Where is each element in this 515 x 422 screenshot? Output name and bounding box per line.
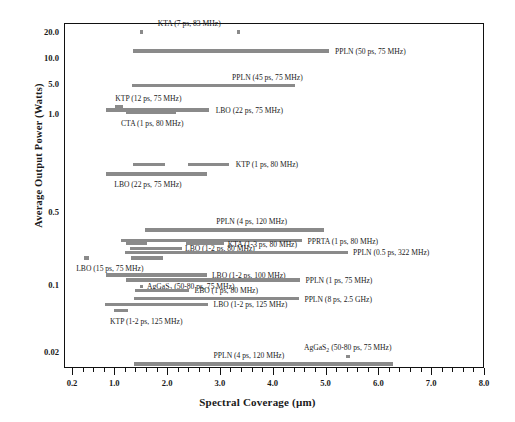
data-label-ktp-20: KTP (1-2 ps, 125 MHz): [110, 316, 183, 325]
data-bar-lbo-7-0: [106, 172, 206, 175]
y-tick-label-0-5: 0.5: [48, 207, 59, 217]
x-tick-minor: [104, 368, 105, 372]
data-label-kta-0: KTA (7 ps, 83 MHz): [158, 19, 221, 28]
data-bar-ktp-20-0: [114, 309, 128, 312]
x-tick-minor: [421, 368, 422, 372]
y-tick-label-1-0: 1.0: [48, 109, 59, 119]
data-label-lbo-17: LBO (1 ps, 80 MHz): [195, 286, 259, 295]
data-bar-ppln-8-0: [145, 228, 325, 231]
x-tick-minor: [368, 368, 369, 372]
data-label-ppln-12: PPLN (0.5 ps, 322 MHz): [353, 248, 429, 257]
y-tick-label-5-0: 5.0: [48, 79, 59, 89]
figure-optical-parametric-oscillator-chart: 20.010.05.01.00.50.10.020 0.21.02.03.04.…: [0, 0, 515, 422]
data-label-lbo-7: LBO (22 ps, 75 MHz): [114, 179, 181, 188]
x-tick-minor: [83, 368, 84, 372]
data-bar-lbo-19-0: [105, 303, 208, 306]
data-bar-ktp-6-0: [133, 163, 165, 166]
x-tick-minor: [442, 368, 443, 372]
x-tick-minor: [125, 368, 126, 372]
data-label-ppln-18: PPLN (8 ps, 2.5 GHz): [304, 294, 372, 303]
data-bar-ppln-2-0: [132, 84, 295, 87]
data-label-ppln-2: PPLN (45 ps, 75 MHz): [232, 72, 303, 81]
data-marker-lbo-13-0: [84, 256, 89, 259]
x-tick-major: [167, 368, 168, 375]
data-bar-lbo-11-0: [130, 247, 182, 250]
x-tick-label-8-0: 8.0: [479, 378, 490, 388]
data-bar-lbo-14-0: [106, 273, 206, 276]
data-label-aggas2-21: AgGaS2 (50-80 ps, 75 MHz): [304, 343, 391, 352]
x-axis-title: Spectral Coverage (µm): [0, 396, 515, 408]
data-bar-ppln-1-0: [133, 49, 328, 52]
y-axis-tick-labels: 20.010.05.01.00.50.10.020: [0, 0, 59, 422]
x-tick-major: [72, 368, 73, 375]
x-tick-minor: [304, 368, 305, 372]
x-tick-minor: [209, 368, 210, 372]
data-label-ppln-22: PPLN (4 ps, 120 MHz): [214, 350, 285, 359]
x-tick-label-0-2: 0.2: [67, 378, 78, 388]
data-marker-kta-0-1: [237, 30, 240, 33]
data-label-ktp-6: KTP (1 ps, 80 MHz): [236, 160, 298, 169]
x-tick-major: [114, 368, 115, 375]
x-tick-minor: [294, 368, 295, 372]
x-tick-label-1-0: 1.0: [109, 378, 120, 388]
x-tick-label-3-0: 3.0: [215, 378, 226, 388]
data-marker-kta-0-0: [140, 30, 143, 33]
x-tick-major: [431, 368, 432, 375]
data-label-ppln-1: PPLN (50 ps, 75 MHz): [335, 47, 406, 56]
x-tick-minor: [146, 368, 147, 372]
x-tick-minor: [357, 368, 358, 372]
x-tick-minor: [93, 368, 94, 372]
x-tick-minor: [262, 368, 263, 372]
x-tick-minor: [463, 368, 464, 372]
y-tick-label-20-0: 20.0: [44, 27, 59, 37]
x-tick-minor: [389, 368, 390, 372]
y-tick-label-0-02: 0.02: [44, 347, 59, 357]
x-tick-major: [378, 368, 379, 375]
x-tick-minor: [188, 368, 189, 372]
x-tick-minor: [315, 368, 316, 372]
data-label-lbo-13: LBO (15 ps, 75 MHz): [76, 263, 143, 272]
x-tick-minor: [199, 368, 200, 372]
data-label-lbo-19: LBO (1-2 ps, 125 MHz): [214, 300, 288, 309]
x-tick-minor: [252, 368, 253, 372]
x-tick-minor: [178, 368, 179, 372]
x-tick-minor: [410, 368, 411, 372]
data-label-cta-5: CTA (1 ps, 80 MHz): [121, 118, 183, 127]
x-tick-minor: [452, 368, 453, 372]
data-bar-ppln-22-0: [134, 362, 393, 365]
x-tick-label-6-0: 6.0: [373, 378, 384, 388]
x-tick-label-7-0: 7.0: [426, 378, 437, 388]
y-tick-label-0-1: 0.1: [48, 280, 59, 290]
x-tick-minor: [241, 368, 242, 372]
data-label-ppln-8: PPLN (4 ps, 120 MHz): [216, 217, 287, 226]
data-label-ktp-3: KTP (12 ps, 75 MHz): [115, 94, 181, 103]
x-tick-minor: [347, 368, 348, 372]
data-label-ppln-15: PPLN (1 ps, 75 MHz): [305, 275, 372, 284]
x-tick-major: [484, 368, 485, 375]
x-tick-minor: [473, 368, 474, 372]
data-bar-ktp-6-1: [188, 163, 229, 166]
x-tick-minor: [230, 368, 231, 372]
y-tick-label-10-0: 10.0: [44, 53, 59, 63]
data-bar-ppln-12-0: [125, 251, 348, 254]
x-tick-minor: [157, 368, 158, 372]
data-label-pprta-9: PPRTA (1 ps, 80 MHz): [308, 236, 378, 245]
data-marker-aggas2-21-0: [346, 355, 350, 358]
data-bar-kta-10-0: [126, 242, 147, 245]
x-tick-minor: [135, 368, 136, 372]
data-marker-aggas2-16-0: [140, 285, 143, 288]
x-tick-label-4-0: 4.0: [267, 378, 278, 388]
data-bar-lbo-13-1: [131, 256, 163, 259]
x-tick-major: [220, 368, 221, 375]
x-tick-label-5-0: 5.0: [320, 378, 331, 388]
x-tick-major: [326, 368, 327, 375]
x-tick-minor: [399, 368, 400, 372]
plot-area: KTA (7 ps, 83 MHz)PPLN (50 ps, 75 MHz)PP…: [64, 23, 484, 368]
y-axis-title: Average Output Power (Watts): [33, 26, 44, 286]
x-tick-minor: [336, 368, 337, 372]
x-tick-minor: [283, 368, 284, 372]
x-tick-major: [273, 368, 274, 375]
x-tick-label-2-0: 2.0: [162, 378, 173, 388]
data-bar-cta-5-0: [126, 111, 176, 114]
data-label-lbo-4: LBO (22 ps, 75 MHz): [216, 105, 283, 114]
